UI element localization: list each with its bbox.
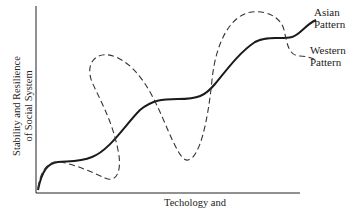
western-pattern-label-line1: Western <box>310 44 346 56</box>
asian-pattern-label-line2: Pattern <box>314 18 345 30</box>
pattern-diagram <box>0 0 349 209</box>
asian-pattern-curve <box>38 20 316 190</box>
y-axis-label-line1: Stability and Resilience <box>11 31 23 181</box>
western-pattern-label-line2: Pattern <box>310 56 346 68</box>
x-axis-label: Techology and Environment <box>140 197 250 209</box>
western-pattern-label: Western Pattern <box>310 44 346 68</box>
y-axis-label: Stability and Resilience of Social Syste… <box>11 31 35 181</box>
asian-pattern-label: Asian Pattern <box>314 6 345 30</box>
asian-pattern-label-line1: Asian <box>314 6 345 18</box>
y-axis-label-line2: of Social System <box>23 31 35 181</box>
